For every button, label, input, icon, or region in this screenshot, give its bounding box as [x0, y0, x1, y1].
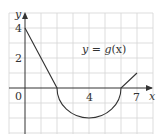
- y-tick-label-4: 4: [15, 22, 22, 35]
- origin-label: 0: [15, 90, 22, 103]
- axes: [9, 15, 152, 134]
- annotation-g: g: [104, 43, 111, 56]
- y-axis-label: y: [14, 8, 22, 21]
- grid: [9, 13, 153, 134]
- x-tick-label-4: 4: [86, 91, 93, 104]
- annotation-equals: =: [88, 43, 104, 56]
- annotation-x: (x): [111, 43, 126, 56]
- x-tick-label-7: 7: [133, 91, 140, 104]
- function-annotation: y = g(x): [81, 43, 126, 56]
- y-tick-label-2: 2: [15, 52, 22, 65]
- x-axis-label: x: [149, 90, 156, 103]
- function-graph: y x 0 4 7 4 2 y = g(x): [0, 0, 161, 140]
